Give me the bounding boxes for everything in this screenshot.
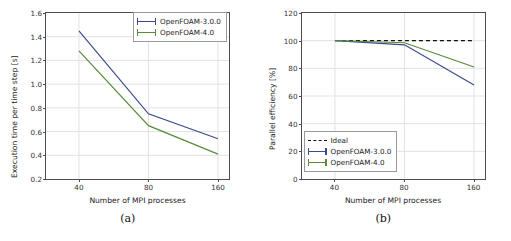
y-tick-label: 1.6 [31, 9, 42, 18]
x-tick-label: 80 [399, 183, 408, 192]
figure-container: 0.20.40.60.81.01.21.41.64080160 Number o… [0, 0, 511, 241]
y-tick-mark [299, 96, 302, 97]
dashed-line-icon [308, 136, 327, 145]
y-tick-label: 1.0 [31, 80, 42, 89]
legend-a: OpenFOAM-3.0.0 OpenFOAM-4.0 [133, 12, 227, 42]
errorbar-icon [137, 17, 156, 26]
subfigure-b: 0204060801001204080160 Number of MPI pro… [256, 0, 511, 241]
x-tick-label: 40 [74, 183, 83, 192]
y-tick-mark [43, 60, 46, 61]
legend-label: Ideal [331, 136, 349, 145]
y-tick-mark [299, 13, 302, 14]
subfigure-caption-b: (b) [256, 212, 511, 225]
x-tick-mark [148, 179, 149, 182]
errorbar-icon [137, 28, 156, 37]
y-tick-mark [43, 155, 46, 156]
x-axis-title-b: Number of MPI processes [301, 196, 486, 205]
y-tick-label: 80 [288, 64, 297, 73]
legend-item-ideal-b[interactable]: Ideal [308, 135, 392, 146]
y-tick-mark [299, 151, 302, 152]
y-axis-title-a: Execution time per time step [s] [10, 55, 19, 178]
subfigure-caption-a: (a) [0, 212, 256, 225]
y-tick-mark [299, 41, 302, 42]
y-tick-label: 0.2 [31, 175, 42, 184]
y-tick-label: 0.4 [31, 151, 42, 160]
errorbar-icon [308, 158, 327, 167]
y-tick-label: 20 [288, 147, 297, 156]
legend-item-openfoam-40-a[interactable]: OpenFOAM-4.0 [137, 27, 221, 38]
legend-label: OpenFOAM-3.0.0 [331, 147, 392, 156]
y-tick-label: 1.2 [31, 56, 42, 65]
y-tick-label: 0.6 [31, 127, 42, 136]
legend-item-openfoam-300-b[interactable]: OpenFOAM-3.0.0 [308, 146, 392, 157]
y-tick-mark [43, 37, 46, 38]
legend-item-openfoam-300-a[interactable]: OpenFOAM-3.0.0 [137, 16, 221, 27]
x-tick-label: 160 [467, 183, 481, 192]
legend-item-openfoam-40-b[interactable]: OpenFOAM-4.0 [308, 157, 392, 168]
x-tick-mark [474, 179, 475, 182]
x-tick-mark [218, 179, 219, 182]
legend-label: OpenFOAM-3.0.0 [160, 17, 221, 26]
y-tick-mark [299, 68, 302, 69]
x-tick-label: 80 [144, 183, 153, 192]
y-tick-mark [43, 132, 46, 133]
y-tick-mark [43, 84, 46, 85]
x-tick-label: 40 [330, 183, 339, 192]
y-tick-label: 0 [293, 175, 298, 184]
errorbar-icon [308, 147, 327, 156]
y-tick-mark [43, 13, 46, 14]
x-tick-mark [334, 179, 335, 182]
y-tick-mark [299, 124, 302, 125]
legend-label: OpenFOAM-4.0 [331, 158, 385, 167]
y-tick-label: 0.8 [31, 103, 42, 112]
y-tick-mark [43, 179, 46, 180]
y-tick-label: 120 [284, 9, 298, 18]
y-tick-label: 40 [288, 119, 297, 128]
y-axis-title-b: Parallel efficiency [%] [268, 68, 277, 150]
x-tick-mark [79, 179, 80, 182]
legend-label: OpenFOAM-4.0 [160, 28, 214, 37]
x-axis-title-a: Number of MPI processes [45, 196, 230, 205]
y-tick-label: 100 [284, 36, 298, 45]
x-tick-label: 160 [211, 183, 225, 192]
subfigure-a: 0.20.40.60.81.01.21.41.64080160 Number o… [0, 0, 256, 241]
y-tick-label: 1.4 [31, 32, 42, 41]
y-tick-label: 60 [288, 92, 297, 101]
y-tick-mark [43, 108, 46, 109]
legend-b: Ideal OpenFOAM-3.0.0 OpenFOAM-4.0 [304, 131, 398, 172]
x-tick-mark [404, 179, 405, 182]
y-tick-mark [299, 179, 302, 180]
